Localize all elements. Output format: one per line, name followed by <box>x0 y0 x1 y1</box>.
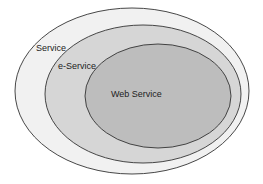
service-label: Service <box>36 43 66 53</box>
web-service-label: Web Service <box>111 89 162 99</box>
e-service-label: e-Service <box>58 61 96 71</box>
nested-venn-diagram: Service e-Service Web Service <box>0 0 263 184</box>
